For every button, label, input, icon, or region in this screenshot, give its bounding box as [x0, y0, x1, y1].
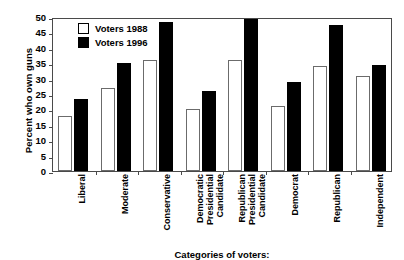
bar-voters-1988	[186, 109, 200, 171]
x-axis-tick-labels: LiberalModerateConservativeDemocraticPre…	[52, 176, 392, 250]
x-tick-mark	[308, 171, 309, 175]
legend-swatch-1988-icon	[78, 23, 89, 34]
y-tick-mark	[49, 173, 53, 174]
x-tick-label: Democrat	[290, 174, 300, 248]
y-tick-label: 25	[24, 90, 46, 100]
chart-legend: Voters 1988 Voters 1996	[78, 21, 186, 49]
bar-group	[351, 19, 394, 171]
bar-voters-1996	[287, 82, 301, 171]
y-tick-mark	[49, 81, 53, 82]
y-tick-label: 20	[24, 105, 46, 115]
x-tick-label: Presidential	[247, 174, 257, 248]
y-tick-label: 30	[24, 75, 46, 85]
bar-voters-1996	[74, 99, 88, 171]
x-tick-label: Liberal	[77, 174, 87, 248]
y-tick-mark	[49, 158, 53, 159]
y-tick-mark	[49, 50, 53, 51]
y-tick-label: 50	[24, 13, 46, 23]
x-tick-label: Republican	[237, 174, 247, 248]
legend-label-1988: Voters 1988	[95, 23, 148, 34]
legend-item-voters-1988: Voters 1988	[78, 21, 186, 35]
bar-voters-1996	[202, 91, 216, 171]
bar-voters-1988	[313, 66, 327, 171]
bar-voters-1988	[58, 116, 72, 171]
bar-voters-1996	[372, 65, 386, 171]
y-tick-mark	[49, 65, 53, 66]
y-tick-label: 45	[24, 28, 46, 38]
bar-voters-1996	[117, 63, 131, 171]
x-tick-mark	[138, 171, 139, 175]
x-tick-mark	[351, 171, 352, 175]
x-tick-mark	[181, 171, 182, 175]
x-tick-label: Democratic	[195, 174, 205, 248]
bar-voters-1988	[356, 76, 370, 171]
bar-voters-1996	[244, 19, 258, 171]
y-tick-label: 5	[24, 152, 46, 162]
bar-voters-1996	[329, 25, 343, 171]
bar-voters-1988	[143, 60, 157, 171]
bar-voters-1988	[101, 88, 115, 171]
x-tick-label: Conservative	[162, 174, 172, 248]
y-tick-mark	[49, 34, 53, 35]
bar-voters-1988	[271, 106, 285, 171]
y-tick-mark	[49, 127, 53, 128]
x-tick-mark	[96, 171, 97, 175]
legend-item-voters-1996: Voters 1996	[78, 35, 186, 49]
x-tick-label: Republican	[332, 174, 342, 248]
x-tick-label: Independent	[375, 174, 385, 248]
bar-group	[223, 19, 266, 171]
y-tick-label: 10	[24, 136, 46, 146]
x-tick-label: Candidate	[257, 174, 267, 248]
x-tick-label: Candidate	[215, 174, 225, 248]
y-tick-mark	[49, 19, 53, 20]
y-axis-tick-labels: 05101520253035404550	[24, 12, 46, 174]
x-tick-label: Presidential	[205, 174, 215, 248]
legend-label-1996: Voters 1996	[95, 37, 148, 48]
x-tick-label: Moderate	[120, 174, 130, 248]
bar-group	[308, 19, 351, 171]
bar-group	[181, 19, 224, 171]
legend-swatch-1996-icon	[78, 37, 89, 48]
bar-group	[266, 19, 309, 171]
y-tick-label: 15	[24, 121, 46, 131]
y-tick-label: 40	[24, 44, 46, 54]
y-tick-label: 35	[24, 59, 46, 69]
bar-chart: Percent who own guns 0510152025303540455…	[0, 0, 404, 260]
y-tick-label: 0	[24, 167, 46, 177]
x-axis-title: Categories of voters:	[52, 249, 392, 260]
y-tick-mark	[49, 142, 53, 143]
y-tick-mark	[49, 111, 53, 112]
bar-voters-1988	[228, 60, 242, 171]
y-tick-mark	[49, 96, 53, 97]
